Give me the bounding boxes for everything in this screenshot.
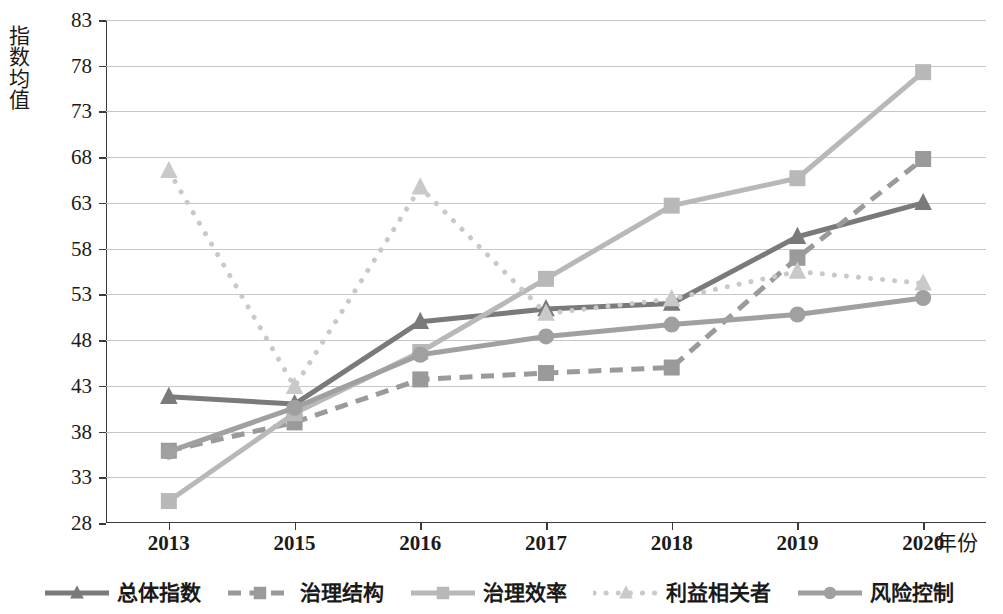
- x-tick-label: 2017: [501, 529, 591, 557]
- x-tick-label: 2018: [627, 529, 717, 557]
- legend-swatch-square-icon: [227, 583, 293, 603]
- data-point-marker: [412, 347, 428, 363]
- line-chart: 指数均值 283338434853586368737883 2013201520…: [0, 0, 1003, 614]
- plot-area: [106, 20, 986, 523]
- legend-label: 利益相关者: [666, 582, 771, 604]
- data-point-marker: [915, 151, 931, 167]
- legend-item-3[interactable]: 治理效率: [410, 582, 567, 604]
- data-point-marker: [789, 170, 805, 186]
- legend-item-5[interactable]: 风险控制: [797, 582, 954, 604]
- data-point-marker: [914, 193, 932, 210]
- data-point-marker: [538, 271, 554, 287]
- x-tick-label: 2013: [124, 529, 214, 557]
- y-tick-label: 48: [44, 330, 92, 351]
- data-point-marker: [789, 306, 805, 322]
- data-point-marker: [161, 493, 177, 509]
- y-tick-mark: [99, 20, 106, 22]
- y-tick-label: 28: [44, 513, 92, 534]
- series-layer: [106, 20, 986, 523]
- legend-label: 治理结构: [300, 582, 384, 604]
- y-tick-mark: [99, 294, 106, 296]
- y-tick-label: 68: [44, 147, 92, 168]
- data-point-marker: [915, 64, 931, 80]
- legend-label: 治理效率: [483, 582, 567, 604]
- x-axis-title: 年份: [936, 529, 978, 557]
- y-tick-label: 83: [44, 10, 92, 31]
- data-point-marker: [411, 177, 429, 194]
- y-tick-label: 78: [44, 55, 92, 76]
- y-tick-mark: [99, 157, 106, 159]
- y-axis-title: 指数均值: [4, 26, 34, 112]
- y-tick-mark: [99, 249, 106, 251]
- legend-swatch-square-icon: [410, 583, 476, 603]
- series-3: [161, 64, 931, 509]
- y-tick-mark: [99, 432, 106, 434]
- y-tick-label: 33: [44, 467, 92, 488]
- data-point-marker: [664, 198, 680, 214]
- legend-swatch-circle-icon: [797, 583, 863, 603]
- legend-swatch-triangle-icon: [44, 583, 110, 603]
- legend-label: 总体指数: [117, 582, 201, 604]
- y-tick-mark: [99, 66, 106, 68]
- y-tick-mark: [99, 203, 106, 205]
- data-point-marker: [538, 328, 554, 344]
- legend-swatch-triangle-icon: [593, 583, 659, 603]
- x-tick-label: 2016: [375, 529, 465, 557]
- y-tick-mark: [99, 111, 106, 113]
- y-tick-label: 38: [44, 421, 92, 442]
- data-point-marker: [664, 360, 680, 376]
- y-tick-label: 63: [44, 192, 92, 213]
- x-tick-label: 2015: [250, 529, 340, 557]
- y-tick-label: 43: [44, 375, 92, 396]
- y-tick-label: 58: [44, 238, 92, 259]
- y-tick-mark: [99, 477, 106, 479]
- legend: 总体指数治理结构治理效率利益相关者风险控制: [0, 572, 1003, 614]
- y-tick-mark: [99, 523, 106, 525]
- y-axis-tick-labels: 283338434853586368737883: [44, 0, 92, 614]
- data-point-marker: [161, 444, 177, 460]
- y-tick-mark: [99, 340, 106, 342]
- legend-item-1[interactable]: 总体指数: [44, 582, 201, 604]
- legend-item-4[interactable]: 利益相关者: [593, 582, 771, 604]
- y-tick-label: 53: [44, 284, 92, 305]
- legend-item-2[interactable]: 治理结构: [227, 582, 384, 604]
- x-tick-label: 2019: [752, 529, 842, 557]
- data-point-marker: [915, 290, 931, 306]
- legend-label: 风险控制: [870, 582, 954, 604]
- y-tick-mark: [99, 386, 106, 388]
- data-point-marker: [664, 317, 680, 333]
- data-point-marker: [538, 365, 554, 381]
- x-axis-tick-labels: 2013201520162017201820192020: [106, 529, 986, 563]
- data-point-marker: [412, 371, 428, 387]
- data-point-marker: [287, 400, 303, 416]
- y-tick-label: 73: [44, 101, 92, 122]
- data-point-marker: [160, 161, 178, 178]
